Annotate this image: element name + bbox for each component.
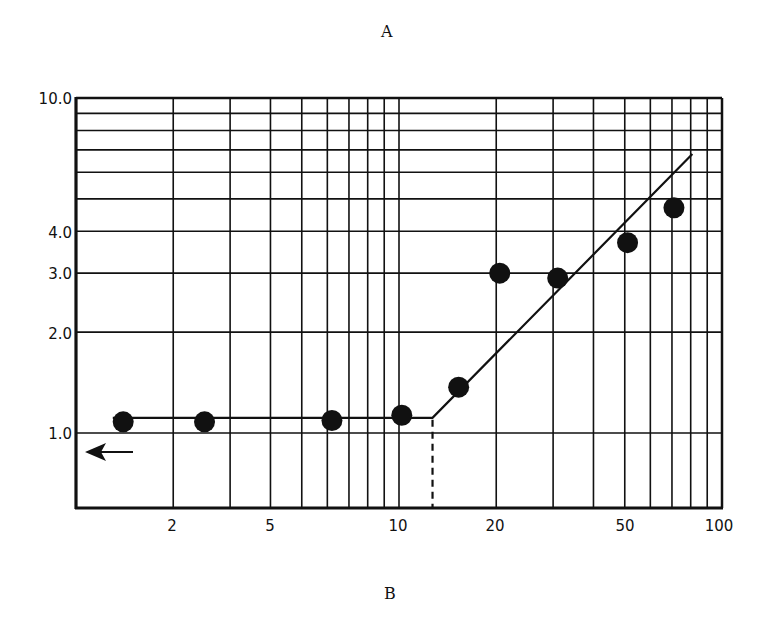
x-tick-label: 5 xyxy=(265,517,275,535)
panel-label-bottom: B xyxy=(384,584,396,603)
data-point xyxy=(663,197,684,218)
fitted-line-path xyxy=(113,154,693,418)
chart-grid xyxy=(76,98,722,508)
data-point xyxy=(489,263,510,284)
y-tick-label: 4.0 xyxy=(48,224,72,242)
x-axis-tick-labels: 25102050100 xyxy=(167,517,733,535)
data-point xyxy=(448,377,469,398)
x-tick-label: 2 xyxy=(167,517,177,535)
y-axis-tick-labels: 1.02.03.04.010.0 xyxy=(39,90,72,443)
x-tick-label: 100 xyxy=(705,517,734,535)
y-tick-label: 2.0 xyxy=(48,325,72,343)
x-tick-label: 50 xyxy=(615,517,634,535)
data-point xyxy=(547,268,568,289)
left-arrow-icon xyxy=(85,443,133,461)
data-point xyxy=(194,411,215,432)
y-tick-label: 3.0 xyxy=(48,265,72,283)
x-tick-label: 10 xyxy=(388,517,407,535)
data-point xyxy=(321,410,342,431)
data-point xyxy=(113,411,134,432)
data-point xyxy=(617,232,638,253)
y-tick-label: 1.0 xyxy=(48,425,72,443)
fitted-line xyxy=(113,154,693,508)
x-tick-label: 20 xyxy=(485,517,504,535)
data-point xyxy=(391,405,412,426)
y-tick-label: 10.0 xyxy=(39,90,72,108)
chart: 25102050100 1.02.03.04.010.0 xyxy=(0,0,765,629)
